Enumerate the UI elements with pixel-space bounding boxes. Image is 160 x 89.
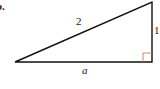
hypotenuse-label: 2	[76, 16, 82, 27]
right-angle-marker	[143, 53, 152, 62]
base-label: a	[82, 65, 88, 76]
triangle-drawing	[0, 0, 160, 89]
right-triangle-figure: b. 2 1 a	[0, 0, 160, 89]
vertical-side-label: 1	[154, 25, 160, 36]
part-label: b.	[0, 1, 5, 12]
triangle-outline	[15, 2, 152, 62]
